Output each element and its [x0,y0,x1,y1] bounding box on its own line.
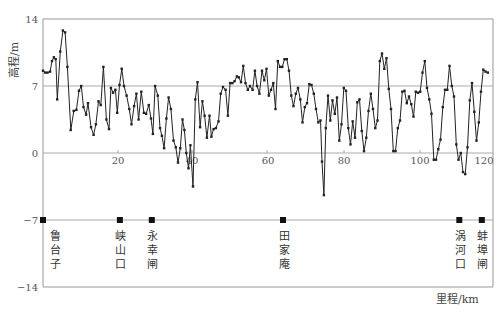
data-point [374,127,376,129]
x-axis: 20 40 60 80 100 120 里程/km [112,150,494,306]
data-point [242,65,244,67]
data-point [315,108,317,110]
data-point [270,89,272,91]
data-point [444,89,446,91]
data-point [220,93,222,95]
data-point [56,98,58,100]
data-point [128,108,130,110]
station-label: 口 [455,258,466,271]
data-point [343,87,345,89]
data-point [170,108,172,110]
data-point [319,119,321,121]
data-point [336,96,338,98]
data-point [229,82,231,84]
data-point [390,108,392,110]
data-point [49,70,51,72]
station-label: 埠 [477,243,488,257]
station-label: 河 [455,244,466,257]
data-point [345,90,347,92]
data-point [272,82,274,84]
data-point [100,104,102,106]
data-point [231,82,233,84]
data-point [125,94,127,96]
data-point [154,85,156,87]
data-point [140,91,142,93]
station-square-icon [280,217,286,223]
data-point [152,133,154,135]
data-point [356,101,358,103]
data-point [194,98,196,100]
data-point [212,128,214,130]
data-point [421,71,423,73]
y-tick-label: 0 [32,148,38,159]
station-square-icon [456,217,462,223]
y-axis-title: 高程/m [7,41,21,78]
data-point [268,94,270,96]
data-point [130,123,132,125]
data-point [161,135,163,137]
data-point [263,79,265,81]
data-point [92,134,94,136]
data-point [446,89,448,91]
data-point [290,94,292,96]
data-point [412,115,414,117]
data-point [410,103,412,105]
data-point [361,130,363,132]
data-point [224,89,226,91]
data-point [80,85,82,87]
data-point [334,113,336,115]
station-label: 涡 [455,230,466,243]
data-point [145,113,147,115]
data-point [87,102,89,104]
data-point [306,102,308,104]
data-point [482,69,484,71]
data-point [487,71,489,73]
data-point [148,104,150,106]
data-point [73,110,75,112]
series-line [43,31,488,196]
data-point [329,119,331,121]
data-point [247,89,249,91]
data-point [227,115,229,117]
data-point [165,117,167,119]
data-point [428,98,430,100]
data-point [90,126,92,128]
x-tick-label: 60 [262,155,275,166]
data-point [462,171,464,173]
data-point [196,81,198,83]
station-label: 鲁 [50,229,61,243]
data-point [177,161,179,163]
data-point [55,58,57,60]
data-point [439,138,441,140]
x-tick-label: 120 [474,155,493,166]
data-point [116,112,118,114]
data-point [208,115,210,117]
data-point [163,147,165,149]
data-point [85,114,87,116]
data-point [295,93,297,95]
data-point [385,57,387,59]
data-point [484,70,486,72]
data-point [419,91,421,93]
data-point [451,85,453,87]
data-point [392,150,394,152]
data-point [203,115,205,117]
data-point [254,70,256,72]
data-point [372,108,374,110]
data-point [379,60,381,62]
data-point [327,94,329,96]
data-point [217,120,219,122]
data-point [408,95,410,97]
data-point [51,60,53,62]
data-point [297,87,299,89]
data-point [466,146,468,148]
station-label: 幸 [147,244,158,257]
data-point [233,80,235,82]
data-point [424,60,426,62]
data-point [137,118,139,120]
data-point [133,105,135,107]
data-point [44,71,46,73]
data-point [301,121,303,123]
data-point [292,105,294,107]
station-label: 山 [115,244,126,257]
